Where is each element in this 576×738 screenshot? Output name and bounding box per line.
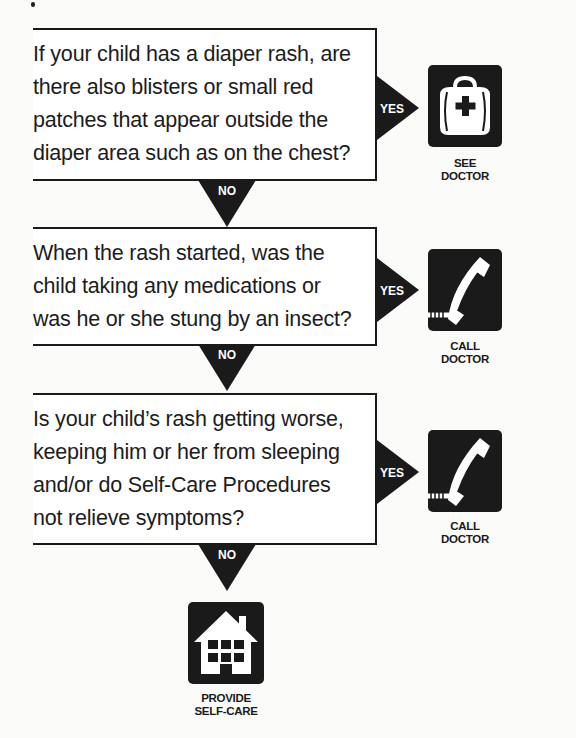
medical-bag-icon [428, 65, 502, 147]
yes-label: YES [380, 284, 404, 298]
yes-arrow-2: YES [377, 258, 421, 322]
telephone-icon [428, 430, 502, 512]
yes-arrow-shape: YES [377, 440, 421, 504]
yes-arrow-3: YES [377, 440, 421, 504]
stray-mark [31, 2, 35, 7]
outcome-icon-self-care [188, 602, 264, 684]
question-box-1: If your child has a diaper rash, are the… [33, 28, 377, 181]
yes-arrow-shape: YES [377, 76, 421, 140]
outcome-label-1: SEE DOCTOR [415, 157, 515, 183]
yes-arrow-shape: YES [377, 258, 421, 322]
outcome-icon-call-doctor-2 [428, 430, 502, 512]
no-arrow-shape: NO [198, 544, 258, 592]
question-box-2: When the rash started, was the child tak… [33, 227, 377, 346]
no-arrow-shape: NO [198, 344, 258, 392]
outcome-label-2: CALL DOCTOR [415, 340, 515, 366]
no-arrow-3: NO [198, 544, 258, 592]
no-label: NO [218, 184, 236, 198]
outcome-icon-call-doctor-1 [428, 249, 502, 331]
question-text-1: If your child has a diaper rash, are the… [33, 30, 375, 170]
question-text-2: When the rash started, was the child tak… [33, 229, 375, 336]
yes-label: YES [380, 466, 404, 480]
yes-label: YES [380, 102, 404, 116]
final-outcome-label: PROVIDE SELF-CARE [176, 692, 276, 718]
question-box-3: Is your child’s rash getting worse, keep… [33, 393, 377, 545]
no-label: NO [218, 348, 236, 362]
no-arrow-shape: NO [198, 180, 258, 228]
no-arrow-2: NO [198, 344, 258, 392]
question-text-3: Is your child’s rash getting worse, keep… [33, 395, 375, 535]
no-label: NO [218, 548, 236, 562]
house-icon [188, 602, 264, 684]
telephone-icon [428, 249, 502, 331]
yes-arrow-1: YES [377, 76, 421, 140]
outcome-icon-see-doctor [428, 65, 502, 147]
outcome-label-3: CALL DOCTOR [415, 520, 515, 546]
no-arrow-1: NO [198, 180, 258, 228]
